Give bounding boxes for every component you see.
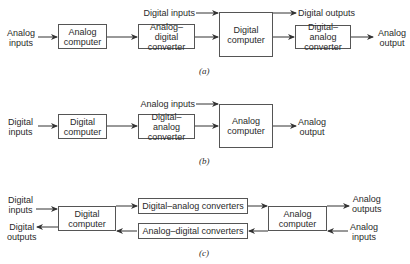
box-analog-computer-a: Analog computer	[58, 24, 107, 49]
box-analog-computer-c: Analog computer	[268, 206, 327, 231]
label-digital-inputs-a: Digital inputs	[140, 8, 195, 18]
label-digital-outputs-a: Digital outputs	[298, 8, 355, 18]
box-digital-computer-a: Digital computer	[219, 12, 273, 57]
caption-c: (c)	[199, 248, 209, 258]
box-analog-computer-b: Analog computer	[219, 104, 273, 148]
label-digital-inputs-b: Digital inputs	[8, 117, 33, 137]
label-digital-outputs-c: Digital outputs	[7, 222, 37, 242]
box-dac-c: Digital–analog converters	[138, 198, 248, 214]
label-analog-output-a: Analog output	[378, 28, 406, 48]
label-analog-outputs-c: Analog outputs	[352, 194, 382, 214]
label-analog-inputs-a: Analog inputs	[7, 28, 35, 48]
caption-a: (a)	[199, 66, 210, 76]
label-analog-inputs-c: Analog inputs	[350, 222, 378, 242]
label-analog-inputs-b: Analog inputs	[140, 99, 195, 109]
caption-b: (b)	[199, 156, 210, 166]
label-analog-output-b: Analog output	[298, 117, 326, 137]
label-digital-inputs-c: Digital inputs	[8, 195, 33, 215]
box-digital-computer-b: Digital computer	[58, 114, 107, 139]
box-dac-a: Digital–analog converter	[295, 25, 351, 49]
box-adc-c: Analog–digital converters	[138, 223, 248, 239]
box-adc-a: Analog–digital converter	[138, 24, 195, 49]
box-dac-b: Digital–analog converter	[138, 114, 195, 139]
box-digital-computer-c: Digital computer	[58, 206, 116, 231]
